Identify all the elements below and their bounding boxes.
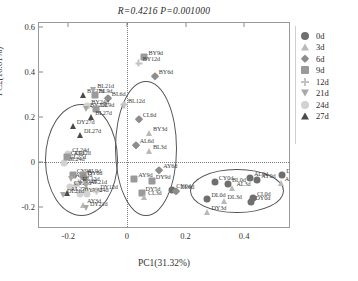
legend-item-0d[interactable]: 0d	[300, 30, 354, 42]
data-point	[120, 101, 127, 108]
x-tick-label: 0.4	[239, 231, 250, 241]
data-point	[131, 175, 138, 182]
data-point-label: CL6d	[143, 112, 157, 118]
data-point	[135, 60, 142, 67]
legend-label: 27d	[316, 111, 329, 121]
x-tick-mark	[244, 23, 245, 27]
data-point-label: DL21d	[67, 188, 84, 194]
legend-label: 21d	[316, 88, 329, 98]
data-point	[77, 132, 83, 138]
legend-marker-triangle-down-icon	[300, 88, 310, 98]
y-axis-label: PC2(16.61%)	[0, 47, 4, 96]
data-point	[148, 177, 155, 184]
y-tick-label: -0.2	[22, 202, 35, 212]
legend-label: 6d	[316, 54, 325, 64]
x-tick-mark	[68, 23, 69, 27]
data-point-label: BL24d	[68, 156, 85, 162]
legend-divider	[295, 26, 296, 144]
legend-item-24d[interactable]: 24d	[300, 99, 354, 111]
data-point-label: AY6d	[163, 163, 177, 169]
data-point	[70, 123, 76, 129]
data-point-label: BL9d	[99, 88, 113, 94]
data-point	[93, 188, 100, 195]
data-point	[63, 154, 70, 161]
y-tick-mark	[39, 117, 43, 118]
data-point-label: AL6d	[140, 138, 154, 144]
legend-item-9d[interactable]: 9d	[300, 65, 354, 77]
data-point-label: BL27d	[95, 110, 112, 116]
data-point	[211, 178, 218, 185]
data-point	[248, 198, 255, 205]
data-point	[80, 92, 86, 98]
data-point-label: DY12d	[100, 184, 118, 190]
data-point	[151, 72, 159, 80]
data-point	[204, 209, 210, 215]
legend: 0d3d6d9d12d21d24d27d	[300, 30, 354, 122]
y-tick-mark	[39, 72, 43, 73]
data-point-label: AY0d	[261, 173, 275, 179]
data-point-label: BY3d	[153, 126, 167, 132]
data-point-label: BY6d	[159, 69, 173, 75]
data-point-label: BL12d	[128, 98, 145, 104]
y-tick-label: 0.4	[24, 67, 35, 77]
legend-marker-square-icon	[300, 65, 310, 75]
data-point	[146, 148, 152, 154]
chart-title: R=0.4216 P=0.001000	[38, 6, 290, 16]
data-point-label: DY0d	[286, 168, 289, 174]
y-tick-mark	[39, 161, 43, 162]
data-point-label: DY9d	[156, 174, 171, 180]
data-point-label: CL3d	[148, 190, 162, 196]
data-point-label: DY0d	[255, 195, 270, 201]
y-tick-label: 0.2	[24, 112, 35, 122]
data-point-label: AL3d	[285, 176, 289, 182]
legend-marker-circle-icon	[300, 31, 310, 41]
data-point	[278, 180, 284, 186]
x-tick-mark	[185, 23, 186, 27]
data-point	[204, 195, 211, 202]
data-point-label: DY21d	[90, 201, 108, 207]
data-point-label: DY3d	[211, 205, 226, 211]
data-point-label: CL9d	[71, 150, 85, 156]
legend-item-12d[interactable]: 12d	[300, 76, 354, 88]
data-point-label: DL6d	[180, 184, 194, 190]
y-tick-label: 0.6	[24, 22, 35, 32]
x-tick-label: 0	[125, 231, 129, 241]
data-point	[83, 205, 89, 211]
plot-canvas: BY9dBY12dBY6dBL12dCL6dBY3dAL6dBL3dAY6dAY…	[39, 23, 289, 227]
legend-label: 12d	[316, 77, 329, 87]
x-axis-label: PC1(31.32%)	[38, 258, 290, 268]
legend-marker-plus-icon	[300, 77, 310, 87]
legend-marker-circle-icon	[300, 100, 310, 110]
y-tick-label: 0	[31, 157, 35, 167]
data-point	[141, 194, 147, 200]
pca-scatter-figure: R=0.4216 P=0.001000 PC2(16.61%) PC1(31.3…	[0, 0, 358, 281]
y-tick-mark	[39, 206, 43, 207]
legend-marker-triangle-up-icon	[300, 111, 310, 121]
data-point	[60, 192, 66, 198]
data-point	[146, 130, 152, 136]
plot-area: BY9dBY12dBY6dBL12dCL6dBY3dAL6dBL3dAY6dAY…	[38, 22, 290, 228]
legend-item-3d[interactable]: 3d	[300, 42, 354, 54]
data-point-label: BY12d	[143, 56, 160, 62]
data-point-label: DL9d	[100, 102, 114, 108]
data-point	[84, 190, 91, 197]
legend-item-27d[interactable]: 27d	[300, 111, 354, 123]
legend-label: 24d	[316, 100, 329, 110]
data-point	[229, 185, 235, 191]
legend-marker-triangle-up-icon	[300, 42, 310, 52]
data-point	[83, 106, 89, 112]
data-point-label: AL3d	[236, 181, 250, 187]
data-point	[254, 176, 261, 183]
data-point-label: DY27d	[77, 119, 95, 125]
y-tick-mark	[39, 27, 43, 28]
legend-label: 0d	[316, 31, 325, 41]
data-point-label: DL3d	[228, 194, 242, 200]
legend-label: 3d	[316, 42, 325, 52]
data-point-label: BL3d	[153, 144, 167, 150]
data-point-label: DL27d	[84, 128, 101, 134]
x-tick-label: 0.2	[180, 231, 191, 241]
legend-item-21d[interactable]: 21d	[300, 88, 354, 100]
legend-item-6d[interactable]: 6d	[300, 53, 354, 65]
x-tick-label: -0.2	[62, 231, 75, 241]
x-tick-mark	[126, 23, 127, 27]
